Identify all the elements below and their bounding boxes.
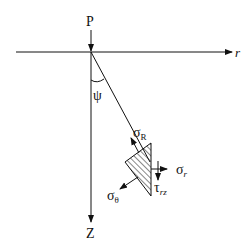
sigma-theta-label: σθ (107, 188, 119, 205)
load-label: P (86, 14, 94, 29)
radial-line (91, 52, 150, 162)
r-axis-label: r (235, 45, 241, 60)
angle-label: ψ (93, 88, 102, 103)
angle-arc (91, 79, 104, 82)
sigma-R-label: σR (133, 125, 147, 142)
stress-diagram: P r Z ψ σR σr τrz σθ (0, 0, 250, 243)
sigma-theta-arrow (120, 177, 138, 189)
sigma-r-label: σr (176, 162, 188, 179)
tau-rz-label: τrz (154, 180, 167, 197)
z-axis-label: Z (86, 226, 95, 241)
